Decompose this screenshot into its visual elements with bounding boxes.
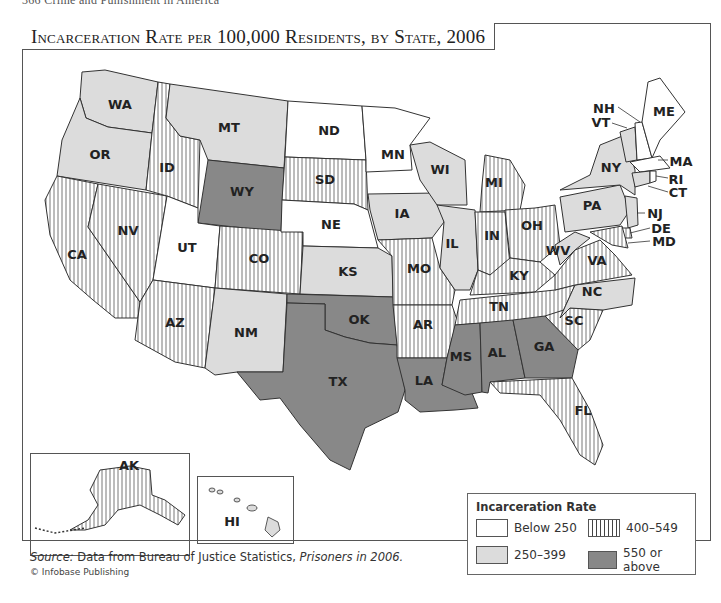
label-TN: TN (489, 299, 509, 314)
swatch-white (476, 519, 508, 537)
label-ND: ND (318, 123, 340, 138)
label-SC: SC (565, 313, 584, 328)
label-RI: RI (669, 172, 684, 187)
label-CA: CA (67, 247, 87, 262)
label-MS: MS (450, 349, 472, 364)
legend-label: 400–549 (626, 521, 678, 535)
swatch-hatched (588, 519, 620, 537)
label-SD: SD (315, 172, 335, 187)
label-ME: ME (653, 104, 675, 119)
swatch-light-gray (476, 546, 508, 564)
label-PA: PA (583, 198, 601, 213)
legend: Incarceration Rate Below 250 400–549 250… (467, 493, 696, 575)
legend-item-550-above: 550 or above (588, 546, 695, 574)
label-ID: ID (159, 160, 175, 175)
source-publication: Prisoners in 2006. (300, 550, 404, 564)
label-VT: VT (592, 115, 611, 130)
legend-label: 550 or above (623, 546, 695, 574)
alaska-inset (30, 453, 190, 556)
copyright: © Infobase Publishing (30, 567, 129, 577)
label-MO: MO (407, 261, 431, 276)
hawaii-inset (197, 476, 294, 544)
legend-item-250-399: 250–399 (476, 546, 566, 564)
map-title: Incarceration Rate per 100,000 Residents… (22, 23, 495, 50)
label-VA: VA (587, 253, 606, 268)
label-WA: WA (108, 97, 132, 112)
label-WV: WV (546, 243, 570, 258)
label-CO: CO (249, 251, 270, 266)
label-FL: FL (574, 403, 591, 418)
label-IN: IN (484, 228, 500, 243)
legend-label: 250–399 (514, 548, 566, 562)
label-OH: OH (521, 218, 543, 233)
label-MA: MA (670, 154, 693, 169)
label-IA: IA (395, 206, 410, 221)
state-RI[interactable] (650, 171, 656, 183)
label-KY: KY (509, 268, 529, 283)
legend-item-below-250: Below 250 (476, 519, 577, 537)
label-KS: KS (338, 264, 357, 279)
label-IL: IL (445, 236, 458, 251)
label-MN: MN (381, 147, 405, 162)
label-UT: UT (177, 240, 197, 255)
label-MD: MD (652, 234, 676, 249)
label-AR: AR (413, 317, 433, 332)
label-NJ: NJ (647, 206, 663, 221)
label-NY: NY (601, 160, 622, 175)
label-MI: MI (485, 175, 503, 190)
label-NE: NE (321, 217, 341, 232)
state-NJ[interactable] (625, 196, 638, 228)
label-AL: AL (488, 345, 506, 360)
legend-title: Incarceration Rate (476, 500, 596, 514)
label-WY: WY (230, 184, 254, 199)
swatch-dark-gray (588, 551, 617, 569)
label-NC: NC (582, 284, 602, 299)
label-GA: GA (534, 339, 555, 354)
label-MT: MT (218, 120, 240, 135)
label-LA: LA (415, 373, 433, 388)
label-CT: CT (669, 185, 688, 200)
label-NM: NM (234, 325, 258, 340)
state-FL[interactable] (490, 378, 603, 465)
label-OR: OR (89, 147, 110, 162)
source-note: Source: Data from Bureau of Justice Stat… (30, 550, 403, 564)
source-prefix: Source: (30, 550, 74, 564)
label-WI: WI (430, 162, 449, 177)
label-NV: NV (118, 223, 139, 238)
label-OK: OK (348, 312, 370, 327)
legend-item-400-549: 400–549 (588, 519, 678, 537)
legend-label: Below 250 (514, 521, 577, 535)
label-NH: NH (593, 101, 615, 116)
source-text: Data from Bureau of Justice Statistics, (74, 550, 300, 564)
label-AZ: AZ (165, 315, 185, 330)
state-CT[interactable] (632, 171, 650, 187)
label-TX: TX (329, 374, 348, 389)
